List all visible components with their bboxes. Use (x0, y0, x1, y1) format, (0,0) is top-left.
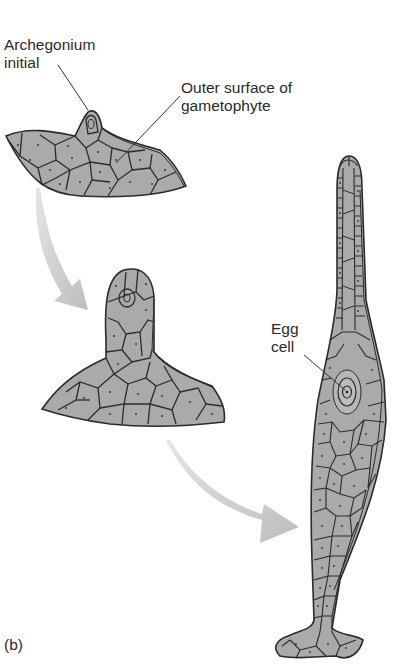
arrow-1-icon (36, 188, 88, 310)
arrow-2-icon (166, 440, 299, 543)
outer-surface-label-line2: gametophyte (181, 97, 292, 115)
outer-surface-label-line1: Outer surface of (181, 79, 292, 97)
stage-1-gametophyte-tissue (6, 111, 186, 197)
archegonium-initial-label-line1: Archegonium (4, 36, 95, 54)
stage-3-mature-archegonium (276, 156, 386, 658)
egg-cell (333, 370, 361, 414)
archegonium-initial-label: Archegonium initial (4, 36, 95, 72)
archegonium-initial-label-line2: initial (4, 54, 95, 72)
outer-surface-label: Outer surface of gametophyte (181, 79, 292, 115)
egg-cell-label-line2: cell (271, 338, 299, 356)
egg-cell-label: Egg cell (271, 320, 299, 356)
egg-cell-label-line1: Egg (271, 320, 299, 338)
panel-label: (b) (4, 636, 23, 654)
